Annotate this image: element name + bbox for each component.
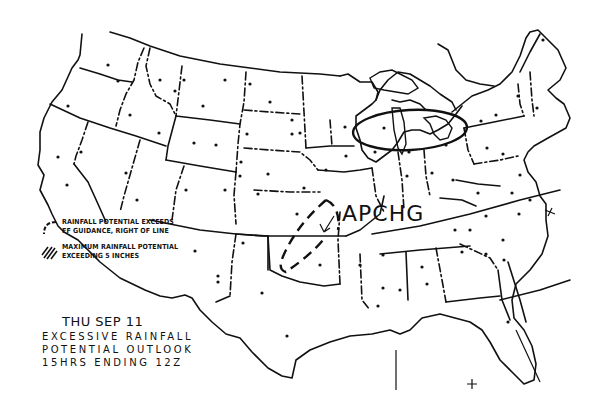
legend-label-line1: RAINFALL POTENTIAL EXCEEDS (62, 218, 174, 226)
legend-label-line1: MAXIMUM RAINFALL POTENTIAL (62, 243, 178, 251)
outlook-title-block: THU SEP 11 EXCESSIVE RAINFALL POTENTIAL … (42, 314, 193, 369)
legend-label-line2: FF GUIDANCE, RIGHT OF LINE (62, 227, 174, 236)
outlook-date: THU SEP 11 (62, 314, 193, 330)
outlook-area-label: APCHG (342, 201, 424, 226)
legend-label-line2: EXCEEDING 5 INCHES (62, 252, 178, 261)
map-legend: RAINFALL POTENTIAL EXCEEDS FF GUIDANCE, … (38, 218, 208, 268)
outlook-title-line1: EXCESSIVE RAINFALL (42, 330, 193, 343)
legend-item-ff-guidance-line: RAINFALL POTENTIAL EXCEEDS FF GUIDANCE, … (38, 218, 208, 236)
hatched-area-icon (38, 243, 62, 261)
legend-item-max-rainfall-area: MAXIMUM RAINFALL POTENTIAL EXCEEDING 5 I… (38, 243, 208, 261)
outlook-title-line2: POTENTIAL OUTLOOK (42, 343, 193, 356)
outlook-title-line3: 15HRS ENDING 12Z (42, 356, 193, 369)
great-lakes-outline (340, 74, 462, 162)
curved-line-icon (38, 218, 62, 236)
